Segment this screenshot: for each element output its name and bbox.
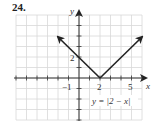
y-axis-label: y — [69, 6, 74, 16]
graph: y x −1 2 5 2 y = |2 − x| — [0, 0, 156, 127]
tick-label-neg1: −1 — [62, 82, 72, 92]
tick-label-2: 2 — [97, 82, 102, 92]
tick-label-5: 5 — [128, 82, 133, 92]
x-axis-label: x — [145, 81, 150, 91]
tick-label-y2: 2 — [70, 53, 75, 63]
equation-label: y = |2 − x| — [91, 96, 131, 106]
